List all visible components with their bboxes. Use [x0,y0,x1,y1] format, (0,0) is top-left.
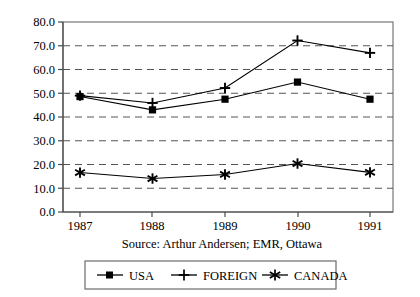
legend-item-canada[interactable]: CANADA [262,269,347,283]
data-point-usa-1989[interactable] [221,96,228,103]
y-tick-label-0: 0.0 [39,205,55,219]
y-tick-label-50: 50.0 [33,87,55,101]
y-tick-label-60: 60.0 [33,63,55,77]
y-axis-ticks: 0.0 10.0 20.0 30.0 40.0 50.0 60.0 70.0 8… [33,15,63,219]
data-point-usa-1991[interactable] [366,96,373,103]
series-layer [75,35,375,183]
legend-item-foreign[interactable]: FOREIGN [171,269,257,283]
data-point-foreign-1989[interactable] [220,83,230,93]
x-tick-label-1987: 1987 [68,219,93,233]
legend-label-usa: USA [129,269,154,283]
gridlines-group [63,46,393,189]
y-tick-label-70: 70.0 [33,39,55,53]
y-tick-label-10: 10.0 [33,182,55,196]
legend-label-canada: CANADA [294,269,347,283]
legend-label-foreign: FOREIGN [203,269,257,283]
square-marker-icon [106,272,113,279]
y-tick-label-30: 30.0 [33,134,55,148]
chart-legend: USA FOREIGN CANADA [85,261,347,289]
series-canada [75,158,375,183]
data-point-foreign-1990[interactable] [292,35,302,45]
y-tick-label-80: 80.0 [33,15,55,29]
source-caption: Source: Arthur Andersen; EMR, Ottawa [122,237,323,251]
data-point-foreign-1991[interactable] [365,48,375,58]
line-chart: 0.0 10.0 20.0 30.0 40.0 50.0 60.0 70.0 8… [0,0,420,297]
y-tick-label-20: 20.0 [33,158,55,172]
x-axis-ticks: 1987 1988 1989 1990 1991 [68,212,383,233]
x-tick-label-1991: 1991 [358,219,383,233]
data-point-foreign-1988[interactable] [147,98,157,108]
data-point-foreign-1987[interactable] [75,90,85,100]
chart-figure: 0.0 10.0 20.0 30.0 40.0 50.0 60.0 70.0 8… [0,0,420,297]
y-tick-label-40: 40.0 [33,110,55,124]
data-point-usa-1990[interactable] [294,78,301,85]
x-tick-label-1988: 1988 [140,219,165,233]
x-tick-label-1990: 1990 [286,219,311,233]
x-tick-label-1989: 1989 [213,219,238,233]
